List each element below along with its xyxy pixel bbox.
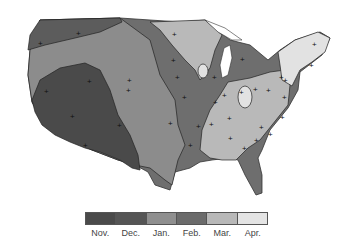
svg-text:+: + bbox=[242, 144, 247, 153]
svg-text:+: + bbox=[227, 114, 232, 123]
svg-text:+: + bbox=[279, 73, 284, 82]
legend-labels: Nov. Dec. Jan. Feb. Mar. Apr. bbox=[85, 228, 268, 238]
svg-text:+: + bbox=[254, 136, 259, 145]
legend-swatch-mar bbox=[207, 213, 237, 224]
svg-text:+: + bbox=[188, 141, 193, 150]
svg-text:+: + bbox=[196, 122, 201, 131]
svg-text:+: + bbox=[228, 134, 233, 143]
svg-text:+: + bbox=[280, 113, 285, 122]
svg-text:+: + bbox=[312, 40, 317, 49]
svg-text:+: + bbox=[213, 98, 218, 107]
svg-text:+: + bbox=[126, 86, 131, 95]
svg-text:+: + bbox=[87, 77, 92, 86]
svg-text:+: + bbox=[309, 61, 314, 70]
svg-text:+: + bbox=[268, 130, 273, 139]
legend-label-apr: Apr. bbox=[238, 228, 269, 238]
legend-swatch-apr bbox=[238, 213, 267, 224]
svg-text:+: + bbox=[212, 73, 217, 82]
svg-text:+: + bbox=[38, 39, 43, 48]
svg-text:+: + bbox=[171, 56, 176, 65]
svg-text:+: + bbox=[259, 123, 264, 132]
svg-text:+: + bbox=[172, 30, 177, 39]
svg-text:+: + bbox=[175, 73, 180, 82]
legend-label-nov: Nov. bbox=[85, 228, 116, 238]
svg-text:+: + bbox=[182, 93, 187, 102]
svg-text:+: + bbox=[209, 120, 214, 129]
svg-text:+: + bbox=[70, 112, 75, 121]
legend: Nov. Dec. Jan. Feb. Mar. Apr. bbox=[85, 212, 268, 242]
legend-swatch-nov bbox=[86, 213, 116, 224]
svg-text:+: + bbox=[168, 119, 173, 128]
legend-label-jan: Jan. bbox=[146, 228, 177, 238]
svg-text:+: + bbox=[76, 29, 81, 38]
svg-text:+: + bbox=[253, 85, 258, 94]
svg-text:+: + bbox=[266, 86, 271, 95]
svg-text:+: + bbox=[239, 88, 244, 97]
legend-label-dec: Dec. bbox=[116, 228, 147, 238]
svg-text:+: + bbox=[127, 76, 132, 85]
svg-text:+: + bbox=[83, 141, 88, 150]
legend-swatch-jan bbox=[147, 213, 177, 224]
legend-swatch-feb bbox=[177, 213, 207, 224]
us-contour-map: + + + + + + + + + + + + + + + + + + + + … bbox=[0, 0, 350, 210]
zone-apr-island-wisconsin bbox=[198, 64, 208, 78]
legend-label-mar: Mar. bbox=[207, 228, 238, 238]
legend-bar bbox=[85, 212, 268, 225]
svg-text:+: + bbox=[117, 121, 122, 130]
legend-label-feb: Feb. bbox=[177, 228, 208, 238]
svg-text:+: + bbox=[222, 91, 227, 100]
svg-text:+: + bbox=[240, 55, 245, 64]
legend-swatch-dec bbox=[116, 213, 146, 224]
svg-text:+: + bbox=[283, 76, 288, 85]
svg-text:+: + bbox=[282, 93, 287, 102]
svg-text:+: + bbox=[44, 87, 49, 96]
